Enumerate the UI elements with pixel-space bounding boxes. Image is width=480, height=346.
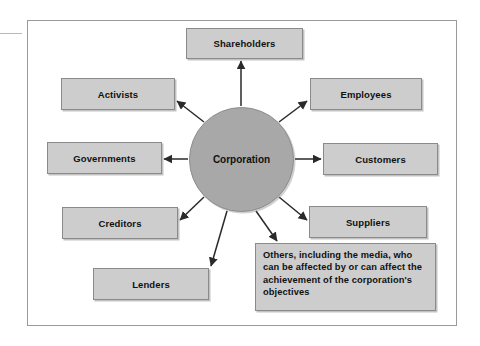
node-suppliers-label: Suppliers [346,217,390,228]
node-customers-label: Customers [355,154,406,165]
arrow-to-suppliers [279,197,307,220]
node-shareholders[interactable]: Shareholders [186,28,303,59]
node-lenders-label: Lenders [132,279,170,290]
hub-label: Corporation [213,154,270,165]
arrow-to-creditors [180,197,204,220]
node-lenders[interactable]: Lenders [93,268,209,300]
node-employees-label: Employees [340,89,391,100]
node-shareholders-label: Shareholders [214,38,276,49]
node-activists[interactable]: Activists [61,78,175,110]
node-suppliers[interactable]: Suppliers [309,206,427,238]
hub-corporation[interactable]: Corporation [189,107,294,212]
node-creditors-label: Creditors [98,218,141,229]
arrow-to-others [256,211,277,241]
arrow-to-employees [279,101,307,122]
node-customers[interactable]: Customers [323,143,438,175]
node-others-label: Others, including the media, who can be … [263,249,428,298]
node-governments-label: Governments [73,153,135,164]
node-others[interactable]: Others, including the media, who can be … [255,243,436,311]
node-governments[interactable]: Governments [47,142,162,174]
node-creditors[interactable]: Creditors [62,207,178,239]
arrow-to-activists [177,101,204,122]
node-employees[interactable]: Employees [310,78,422,110]
node-activists-label: Activists [98,89,139,100]
arrow-to-lenders [211,211,227,266]
diagram-canvas: Corporation Shareholders Activists Emplo… [0,0,480,346]
